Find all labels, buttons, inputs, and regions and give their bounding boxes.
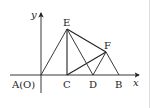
label-F: F — [104, 40, 111, 51]
right-border-line — [149, 0, 150, 108]
label-B: B — [115, 79, 122, 90]
label-A: A(O) — [11, 79, 35, 90]
label-D: D — [89, 79, 97, 90]
geometry-diagram: y E F A(O) C D B x — [0, 0, 154, 108]
segment-FB — [106, 52, 119, 75]
segment-AE — [41, 29, 67, 75]
label-x: x — [133, 77, 139, 88]
label-y: y — [30, 9, 37, 20]
segment-ED — [67, 29, 93, 75]
label-E: E — [63, 17, 70, 28]
segment-CF — [67, 52, 106, 75]
label-C: C — [63, 79, 71, 90]
diagram-canvas: y E F A(O) C D B x — [0, 0, 154, 108]
segment-EF — [67, 29, 106, 52]
